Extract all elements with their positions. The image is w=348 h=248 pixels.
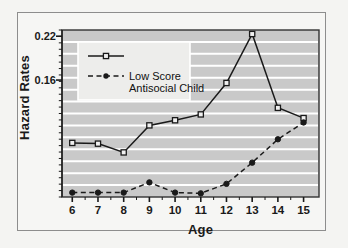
data-point-marker [275, 137, 280, 142]
y-tick-label: 0.22 [22, 30, 56, 42]
data-point-marker [172, 190, 177, 195]
y-axis-title: Hazard Rates [17, 43, 32, 153]
x-tick-label: 6 [60, 204, 84, 216]
x-tick-label: 12 [214, 204, 238, 216]
data-point-marker [95, 141, 100, 146]
data-point-marker [224, 80, 229, 85]
data-point-marker [198, 112, 203, 117]
data-point-marker [121, 150, 126, 155]
data-point-marker [172, 118, 177, 123]
x-tick-label: 8 [112, 204, 136, 216]
x-tick-label: 13 [240, 204, 264, 216]
data-point-marker [224, 181, 229, 186]
y-axis [56, 30, 62, 197]
x-axis-title: Age [58, 222, 343, 237]
data-point-marker [147, 180, 152, 185]
data-point-marker [301, 120, 306, 125]
data-point-marker [70, 190, 75, 195]
legend-label-series-2-line1: Low Score [129, 70, 181, 83]
legend-marker-sample [103, 53, 108, 58]
data-point-marker [249, 160, 254, 165]
data-point-marker [147, 123, 152, 128]
x-tick-label: 11 [189, 204, 213, 216]
data-point-marker [70, 140, 75, 145]
x-tick-label: 7 [86, 204, 110, 216]
legend-label-series-2-line2: Antisocial Child [129, 82, 204, 95]
data-point-marker [121, 190, 126, 195]
data-point-marker [95, 190, 100, 195]
data-point-marker [275, 105, 280, 110]
legend-marker-sample [103, 73, 108, 78]
x-tick-label: 15 [292, 204, 316, 216]
x-tick-label: 9 [137, 204, 161, 216]
x-tick-label: 10 [163, 204, 187, 216]
data-point-marker [250, 31, 255, 36]
figure-container: Hazard Rates Age 6789101112131415 0.160.… [0, 0, 348, 248]
y-tick-label: 0.16 [22, 74, 56, 86]
x-tick-label: 14 [266, 204, 290, 216]
data-point-marker [198, 191, 203, 196]
x-axis [72, 197, 303, 202]
